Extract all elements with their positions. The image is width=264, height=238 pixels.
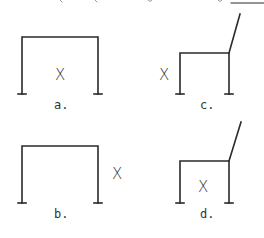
- x-mark-b: X: [112, 167, 122, 182]
- frame-d: [176, 122, 241, 203]
- frame-b: [18, 146, 102, 203]
- frames-svg: [0, 0, 264, 238]
- figure-label-a: a.: [54, 99, 68, 111]
- header-fragment: [60, 0, 264, 3]
- figure-label-b: b.: [54, 208, 68, 220]
- x-mark-c: X: [159, 68, 169, 83]
- inclined-member: [229, 122, 241, 161]
- figure-label-c: c.: [200, 99, 214, 111]
- inclined-member: [229, 14, 240, 53]
- x-mark-a: X: [55, 68, 65, 83]
- x-mark-d: X: [198, 180, 208, 195]
- frame-c: [176, 14, 240, 94]
- figure-label-d: d.: [200, 208, 214, 220]
